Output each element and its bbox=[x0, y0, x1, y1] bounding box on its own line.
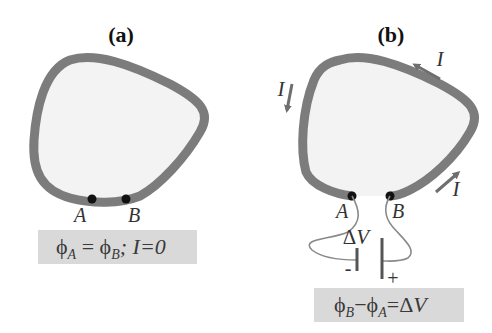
two-panel-conductor-diagram: (a) A B ϕA = ϕB; I=0 (b) A B I I bbox=[0, 0, 492, 333]
panel-a: (a) A B ϕA = ϕB; I=0 bbox=[34, 22, 205, 264]
point-a-label: A bbox=[72, 204, 87, 226]
current-label-left: I bbox=[277, 77, 286, 101]
current-arrow-left: I bbox=[277, 77, 293, 110]
panel-b-label: (b) bbox=[378, 22, 405, 47]
closed-conductor-loop bbox=[34, 57, 205, 202]
open-conductor-loop-fill bbox=[303, 57, 475, 196]
panel-a-label: (a) bbox=[108, 22, 134, 47]
current-label-bottom-right: I bbox=[452, 177, 461, 201]
point-b-dot bbox=[122, 195, 131, 204]
point-b-label: B bbox=[392, 200, 404, 222]
battery: ΔV - + bbox=[343, 225, 399, 289]
current-arrow-bottom-right: I bbox=[436, 173, 461, 201]
current-label-top-right: I bbox=[436, 47, 445, 71]
negative-terminal-sign: - bbox=[345, 257, 352, 279]
voltage-label: ΔV bbox=[343, 225, 372, 249]
panel-b: (b) A B I I I ΔV - + bbox=[277, 22, 475, 322]
point-a-dot bbox=[88, 195, 97, 204]
positive-terminal-sign: + bbox=[387, 267, 398, 289]
point-b-label: B bbox=[128, 204, 140, 226]
point-a-label: A bbox=[334, 200, 349, 222]
